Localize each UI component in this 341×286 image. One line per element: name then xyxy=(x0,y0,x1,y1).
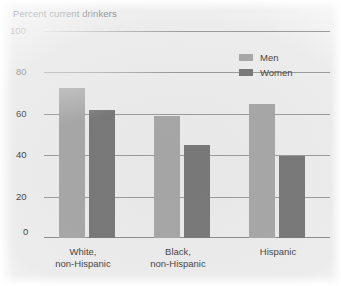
bar-hispanic-men xyxy=(249,104,275,238)
y-tick-100: 100 xyxy=(10,25,44,36)
x-label-line1: Hispanic xyxy=(260,246,296,257)
y-tick-80: 80 xyxy=(16,66,50,77)
legend-item-women: Women xyxy=(239,65,293,80)
y-tick-60: 60 xyxy=(16,108,50,119)
bar-black-non-hispanic-men xyxy=(154,116,180,238)
x-label-line2: non-Hispanic xyxy=(40,258,126,270)
y-tick-20: 20 xyxy=(16,191,50,202)
legend-swatch-women-icon xyxy=(239,69,253,76)
y-tick-0: 0 xyxy=(23,226,57,237)
gridline-100 xyxy=(44,31,330,32)
chart-title: Percent current drinkers xyxy=(13,8,117,19)
x-label-hispanic: Hispanic xyxy=(235,246,321,258)
bar-black-non-hispanic-women xyxy=(184,145,210,238)
x-label-line1: Black, xyxy=(165,246,191,257)
x-label-white-non-hispanic: White, non-Hispanic xyxy=(40,246,126,270)
bar-hispanic-women xyxy=(279,156,305,238)
legend: Men Women xyxy=(239,50,293,80)
chart-figure: Percent current drinkers 100 80 60 40 20… xyxy=(0,0,341,286)
y-tick-40: 40 xyxy=(16,149,50,160)
x-label-line2: non-Hispanic xyxy=(135,258,221,270)
legend-label-women: Women xyxy=(260,67,293,78)
legend-item-men: Men xyxy=(239,50,293,65)
x-label-line1: White, xyxy=(70,246,97,257)
bar-white-non-hispanic-women xyxy=(89,110,115,238)
x-label-black-non-hispanic: Black, non-Hispanic xyxy=(135,246,221,270)
legend-swatch-men-icon xyxy=(239,54,253,61)
gridline-60 xyxy=(44,114,330,115)
bar-white-non-hispanic-men xyxy=(59,88,85,238)
legend-label-men: Men xyxy=(260,52,278,63)
